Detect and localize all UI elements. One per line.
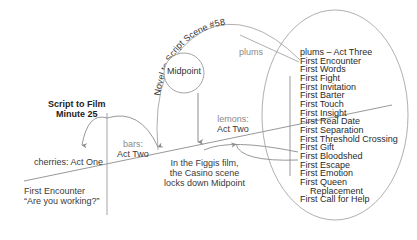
- script-to-film-line2: Minute 25: [48, 109, 106, 119]
- bars-line1: bars:: [117, 139, 149, 149]
- figgis-line3: locks down Midpoint: [164, 178, 245, 188]
- cherries-arrow: [82, 117, 107, 145]
- script-to-film-line1: Script to Film: [48, 99, 106, 109]
- midpoint-label: Midpoint: [164, 66, 204, 76]
- lemons-line2: Act Two: [217, 124, 249, 134]
- list-item: First Call for Help: [300, 195, 398, 204]
- lemons-line1: lemons:: [217, 114, 249, 124]
- bars-line2: Act Two: [117, 149, 149, 159]
- first-encounter-line1: First Encounter: [24, 186, 100, 196]
- figgis-line1: In the Figgis film,: [164, 158, 245, 168]
- lemons-to-midpoint-arrow: [204, 144, 298, 152]
- cherries-label: cherries: Act One: [34, 157, 103, 167]
- lemons-label: lemons: Act Two: [217, 114, 249, 134]
- figgis-note: In the Figgis film, the Casino scene loc…: [164, 158, 245, 188]
- figgis-line2: the Casino scene: [164, 168, 245, 178]
- act-three-list: plums – Act Three First Encounter First …: [300, 48, 398, 204]
- bars-label: bars: Act Two: [117, 139, 149, 159]
- plums-label: plums: [239, 47, 263, 57]
- first-encounter-note: First Encounter “Are you working?”: [24, 186, 100, 206]
- first-encounter-line2: “Are you working?”: [24, 196, 100, 206]
- script-to-film-label: Script to Film Minute 25: [48, 99, 106, 119]
